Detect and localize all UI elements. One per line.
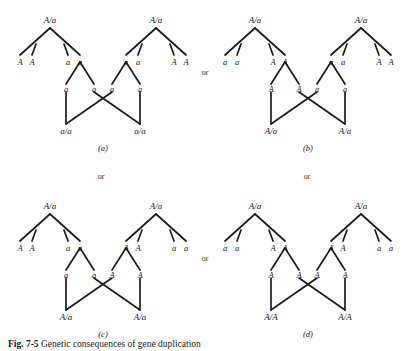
panel-c-gamete-1: a <box>64 271 68 280</box>
panel-a-offspring-2: a/a <box>134 127 146 136</box>
panel-d-gamete-1: A <box>268 271 273 280</box>
panel-b-gamete-4: a <box>343 85 347 94</box>
panel-c-left-leaf-3: a <box>66 244 70 253</box>
panel-b-left-leaf-4: A <box>282 58 287 67</box>
panel-a-gamete-4: a <box>138 85 142 94</box>
panel-a-gamete-2: a <box>92 85 96 94</box>
panel-d-right-leaf-2: A <box>340 244 345 253</box>
panel-b-left-leaf-2: a <box>235 58 239 67</box>
panel-d: A/a A/a a a A A A A a a A A A A A/A A/A … <box>205 186 411 351</box>
panel-b-right-leaf-4: A <box>388 58 393 67</box>
panel-c-gamete-4: A <box>137 271 142 280</box>
figure-caption-prefix: Fig. 7-5 <box>8 339 39 349</box>
panel-a-right-leaf-2: a <box>136 58 140 67</box>
panel-c-left-leaf-2: A <box>29 244 34 253</box>
panel-c-right-leaf-2: A <box>135 244 140 253</box>
panel-b-offspring-1: A/a <box>265 127 278 136</box>
panel-a-left-leaf-4: a <box>78 58 82 67</box>
panel-d-lines <box>205 186 411 351</box>
panel-b-left-leaf-3: A <box>270 58 275 67</box>
panel-d-left-leaf-3: A <box>270 244 275 253</box>
panel-c-offspring-2: A/a <box>134 313 147 322</box>
panel-b-left-leaf-1: a <box>223 58 227 67</box>
panel-a-left-leaf-3: a <box>66 58 70 67</box>
panel-c-lines <box>0 186 206 351</box>
panel-a-tag: (a) <box>98 143 108 153</box>
panel-d-gamete-3: A <box>314 271 319 280</box>
panel-a-left-parent-genotype: A/a <box>44 16 57 25</box>
panel-b-gamete-3: a <box>315 85 319 94</box>
panel-c: A/a A/a A A a a A A a a a a A A A/a A/a … <box>0 186 206 351</box>
panel-c-right-leaf-1: A <box>123 244 128 253</box>
figure-caption-text: Genetic consequences of gene duplication <box>41 339 201 349</box>
panel-d-right-leaf-1: A <box>328 244 333 253</box>
panel-a-right-leaf-4: A <box>183 58 188 67</box>
panel-b-left-parent-genotype: A/a <box>249 16 262 25</box>
panel-d-right-parent-genotype: A/a <box>355 202 368 211</box>
or-connector-bottom-center: or <box>202 254 209 263</box>
panel-d-left-leaf-1: a <box>223 244 227 253</box>
panel-a-right-leaf-1: a <box>124 58 128 67</box>
or-connector-top: or <box>202 68 209 77</box>
panel-d-left-parent-genotype: A/a <box>249 202 262 211</box>
panel-d-left-leaf-2: a <box>235 244 239 253</box>
panel-b-right-leaf-1: a <box>329 58 333 67</box>
panel-c-right-parent-genotype: A/a <box>150 202 163 211</box>
panel-d-left-leaf-4: A <box>282 244 287 253</box>
panel-a-left-leaf-1: A <box>17 58 22 67</box>
panel-b-gamete-1: A <box>268 85 273 94</box>
panel-c-right-leaf-4: a <box>184 244 188 253</box>
panel-b-right-leaf-3: A <box>376 58 381 67</box>
panel-d-right-leaf-3: a <box>377 244 381 253</box>
panel-c-left-leaf-4: a <box>78 244 82 253</box>
or-connector-right-middle: or <box>304 172 311 181</box>
panel-a-gamete-1: a <box>64 85 68 94</box>
panel-b-tag: (b) <box>303 143 313 153</box>
panel-c-gamete-2: a <box>92 271 96 280</box>
panel-a-left-leaf-2: A <box>29 58 34 67</box>
panel-a-offspring-1: a/a <box>60 127 72 136</box>
panel-d-gamete-2: A <box>296 271 301 280</box>
figure-gene-duplication: A/a A/a A A a a a a A A a a a a a/a a/a … <box>0 0 411 351</box>
panel-b: A/a A/a a a A A a a A A A A a a A/a A/a … <box>205 0 411 176</box>
or-connector-left-middle: or <box>98 172 105 181</box>
panel-b-offspring-2: A/a <box>339 127 352 136</box>
panel-c-gamete-3: A <box>109 271 114 280</box>
panel-c-right-leaf-3: a <box>172 244 176 253</box>
panel-d-offspring-1: A/A <box>264 313 278 322</box>
panel-b-gamete-2: A <box>296 85 301 94</box>
panel-a-right-parent-genotype: A/a <box>150 16 163 25</box>
panel-c-left-leaf-1: A <box>17 244 22 253</box>
panel-c-offspring-1: A/a <box>60 313 73 322</box>
figure-caption: Fig. 7-5 Genetic consequences of gene du… <box>8 338 408 350</box>
panel-b-right-leaf-2: a <box>341 58 345 67</box>
panel-d-offspring-2: A/A <box>338 313 352 322</box>
panel-a-right-leaf-3: A <box>171 58 176 67</box>
panel-d-gamete-4: A <box>342 271 347 280</box>
panel-b-right-parent-genotype: A/a <box>355 16 368 25</box>
panel-a-gamete-3: a <box>110 85 114 94</box>
panel-a: A/a A/a A A a a a a A A a a a a a/a a/a … <box>0 0 206 176</box>
panel-c-left-parent-genotype: A/a <box>44 202 57 211</box>
panel-d-right-leaf-4: a <box>389 244 393 253</box>
